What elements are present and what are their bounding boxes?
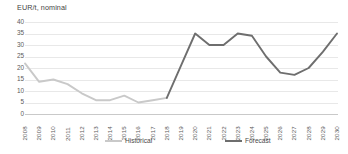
y-tick-label-40: 40 xyxy=(2,19,24,25)
y-tick-label-10: 10 xyxy=(2,88,24,94)
y-tick-label-20: 20 xyxy=(2,65,24,71)
y-tick-label-15: 15 xyxy=(2,76,24,82)
chart-container: EUR/t, nominal 4035302520151050 20082009… xyxy=(0,0,348,154)
chart-legend: HistoricalForecast xyxy=(0,138,348,152)
y-tick-label-30: 30 xyxy=(2,42,24,48)
legend-label: Forecast xyxy=(245,138,271,145)
legend-swatch-historical-icon xyxy=(105,140,122,142)
series-line-forecast xyxy=(167,34,337,98)
series-line-historical xyxy=(25,63,167,102)
data-series-lines xyxy=(25,22,338,114)
y-tick-label-35: 35 xyxy=(2,30,24,36)
y-tick-label-25: 25 xyxy=(2,53,24,59)
plot-area xyxy=(25,22,338,114)
legend-item-forecast[interactable]: Forecast xyxy=(225,138,271,145)
y-axis-labels: 4035302520151050 xyxy=(0,22,24,114)
y-tick-label-5: 5 xyxy=(2,99,24,105)
legend-label: Historical xyxy=(125,138,152,145)
legend-item-historical[interactable]: Historical xyxy=(105,138,152,145)
chart-axis-title: EUR/t, nominal xyxy=(17,3,67,12)
y-tick-label-0: 0 xyxy=(2,111,24,117)
legend-swatch-forecast-icon xyxy=(225,140,242,142)
